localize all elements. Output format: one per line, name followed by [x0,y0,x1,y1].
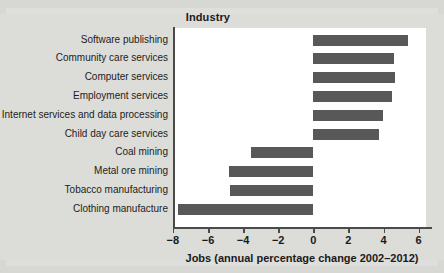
x-axis-tick-label: −8 [156,234,190,246]
x-axis-tick-label: 0 [296,234,330,246]
x-axis-tick-label: 6 [402,234,436,246]
bar [313,72,395,83]
bar-row: Clothing manufacture [0,200,444,219]
x-axis-tick [313,228,315,233]
bar [313,35,408,46]
x-axis-tick [348,228,350,233]
x-axis-tick [243,228,245,233]
bar-row: Software publishing [0,31,444,50]
x-axis-tick [419,228,421,233]
bar-row: Employment services [0,87,444,106]
bar [251,147,313,158]
bar [313,110,382,121]
bar-row: Computer services [0,68,444,87]
category-label: Coal mining [0,143,168,162]
x-axis-tick [208,228,210,233]
bar-row: Child day care services [0,125,444,144]
chart-title: Industry [0,11,230,23]
category-label: Metal ore mining [0,162,168,181]
bar [313,53,394,64]
bar-row: Coal mining [0,143,444,162]
x-axis-tick-label: −4 [226,234,260,246]
category-label: Tobacco manufacturing [0,181,168,200]
x-axis-tick [173,228,175,233]
bar-row: Community care services [0,49,444,68]
category-label: Clothing manufacture [0,200,168,219]
x-axis-title: Jobs (annual percentage change 2002–2012… [174,252,430,264]
bar-row: Tobacco manufacturing [0,181,444,200]
bar [178,204,313,215]
category-label: Child day care services [0,125,168,144]
bar [229,166,313,177]
bar-chart-figure: Industry Software publishingCommunity ca… [0,0,444,273]
category-label: Software publishing [0,31,168,50]
x-axis-tick-label: −2 [261,234,295,246]
category-label: Community care services [0,49,168,68]
x-axis-line [173,227,432,229]
bar [313,129,379,140]
bar-row: Internet services and data processing [0,106,444,125]
category-label: Computer services [0,68,168,87]
category-label: Internet services and data processing [0,106,168,125]
x-axis-tick-label: 4 [367,234,401,246]
bar [313,91,392,102]
x-axis-tick [384,228,386,233]
x-axis-tick [278,228,280,233]
category-label: Employment services [0,87,168,106]
bar-row: Metal ore mining [0,162,444,181]
x-axis-tick-label: 2 [331,234,365,246]
x-axis-tick-label: −6 [191,234,225,246]
bar [230,185,313,196]
